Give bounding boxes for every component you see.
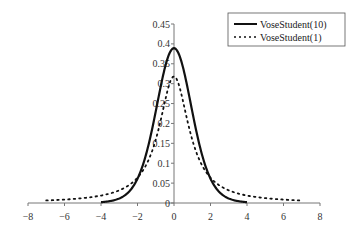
x-tick-label: −6: [59, 211, 70, 222]
x-tick-label: 8: [318, 211, 323, 222]
legend: VoseStudent(10) VoseStudent(1): [228, 13, 345, 46]
y-tick-label: 0.4: [158, 38, 171, 49]
x-tick-label: −8: [23, 211, 34, 222]
legend-label-2: VoseStudent(1): [260, 32, 321, 44]
x-tick-label: 6: [281, 211, 286, 222]
y-tick-label: 0.1: [158, 158, 171, 169]
x-tick-label: −4: [96, 211, 107, 222]
y-tick-label: 0.45: [153, 19, 171, 30]
y-tick-label: 0.05: [153, 178, 171, 189]
y-tick-label: 0.25: [153, 98, 171, 109]
x-tick-label: 2: [208, 211, 213, 222]
x-tick-label: 0: [172, 211, 177, 222]
legend-label-1: VoseStudent(10): [260, 19, 326, 31]
y-tick-label: 0: [165, 198, 170, 209]
x-tick-label: 4: [245, 211, 250, 222]
chart: −8−6−4−20246800.050.10.150.20.250.30.350…: [0, 0, 355, 238]
x-tick-label: −2: [132, 211, 143, 222]
